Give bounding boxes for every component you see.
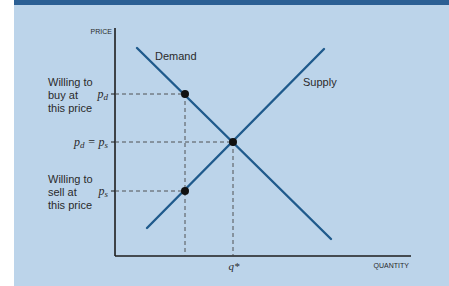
y-axis-label: PRICE (91, 28, 113, 35)
point-ps (181, 187, 189, 195)
pd-label: pd (97, 87, 109, 102)
buy-annotation: Willing to buy at this price (48, 76, 96, 114)
supply-curve (147, 49, 324, 228)
ps-label: ps (97, 184, 108, 199)
point-pd (181, 90, 189, 98)
demand-label: Demand (155, 50, 197, 62)
equilibrium-price-label: pd = ps (73, 135, 109, 150)
supply-label: Supply (303, 76, 337, 88)
supply-demand-diagram: PRICE QUANTITY Demand Supply pd pd = ps … (0, 0, 449, 286)
point-equilibrium (229, 138, 237, 146)
qstar-label: q* (229, 260, 241, 272)
sell-annotation: Willing to sell at this price (48, 173, 96, 211)
x-axis-label: QUANTITY (374, 262, 410, 270)
